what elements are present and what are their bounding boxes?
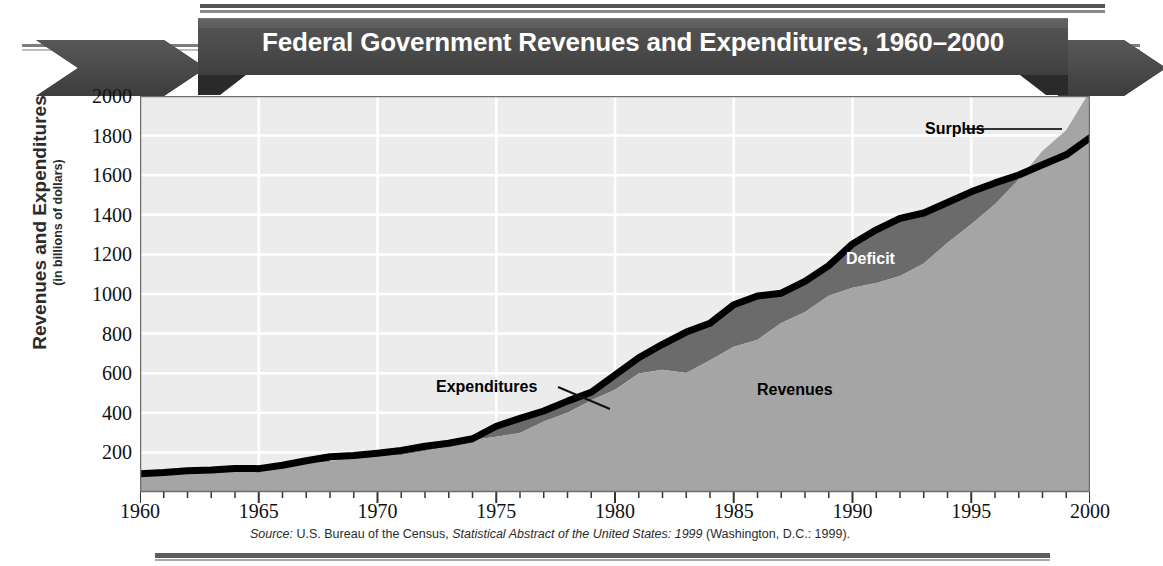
callout-expenditures: Expenditures bbox=[436, 378, 537, 396]
source-suffix: (Washington, D.C.: 1999). bbox=[703, 527, 851, 541]
source-prefix: Source: bbox=[250, 527, 293, 541]
bottom-rule-light bbox=[155, 559, 1050, 561]
bottom-rule-dark bbox=[155, 553, 1050, 558]
source-note: Source: U.S. Bureau of the Census, Stati… bbox=[0, 527, 1100, 541]
y-tick-label: 600 bbox=[102, 362, 132, 385]
callout-surplus: Surplus bbox=[925, 120, 985, 138]
y-tick-label: 1800 bbox=[92, 124, 132, 147]
y-tick-label: 800 bbox=[102, 322, 132, 345]
y-tick-label: 1000 bbox=[92, 283, 132, 306]
source-publication: Statistical Abstract of the United State… bbox=[452, 527, 702, 541]
top-rule-light bbox=[200, 10, 1105, 13]
banner-bar: Federal Government Revenues and Expendit… bbox=[198, 18, 1068, 75]
y-tick-label: 400 bbox=[102, 401, 132, 424]
y-axis-tick-labels: 200400600800100012001400160018002000 bbox=[40, 96, 132, 492]
chart-title: Federal Government Revenues and Expendit… bbox=[198, 27, 1068, 58]
chart-svg bbox=[140, 96, 1090, 504]
title-banner: Federal Government Revenues and Expendit… bbox=[18, 18, 1146, 90]
banner-right-fold bbox=[1020, 75, 1068, 95]
source-agency: U.S. Bureau of the Census, bbox=[293, 527, 452, 541]
y-tick-label: 1200 bbox=[92, 243, 132, 266]
y-tick-label: 2000 bbox=[92, 85, 132, 108]
top-rule-dark bbox=[200, 4, 1105, 8]
y-tick-label: 1600 bbox=[92, 164, 132, 187]
callout-revenues: Revenues bbox=[757, 381, 833, 399]
y-tick-label: 200 bbox=[102, 441, 132, 464]
callout-deficit: Deficit bbox=[846, 250, 895, 268]
y-tick-label: 1400 bbox=[92, 203, 132, 226]
banner-left-fold bbox=[198, 75, 246, 95]
chart-plot-area bbox=[140, 96, 1090, 492]
